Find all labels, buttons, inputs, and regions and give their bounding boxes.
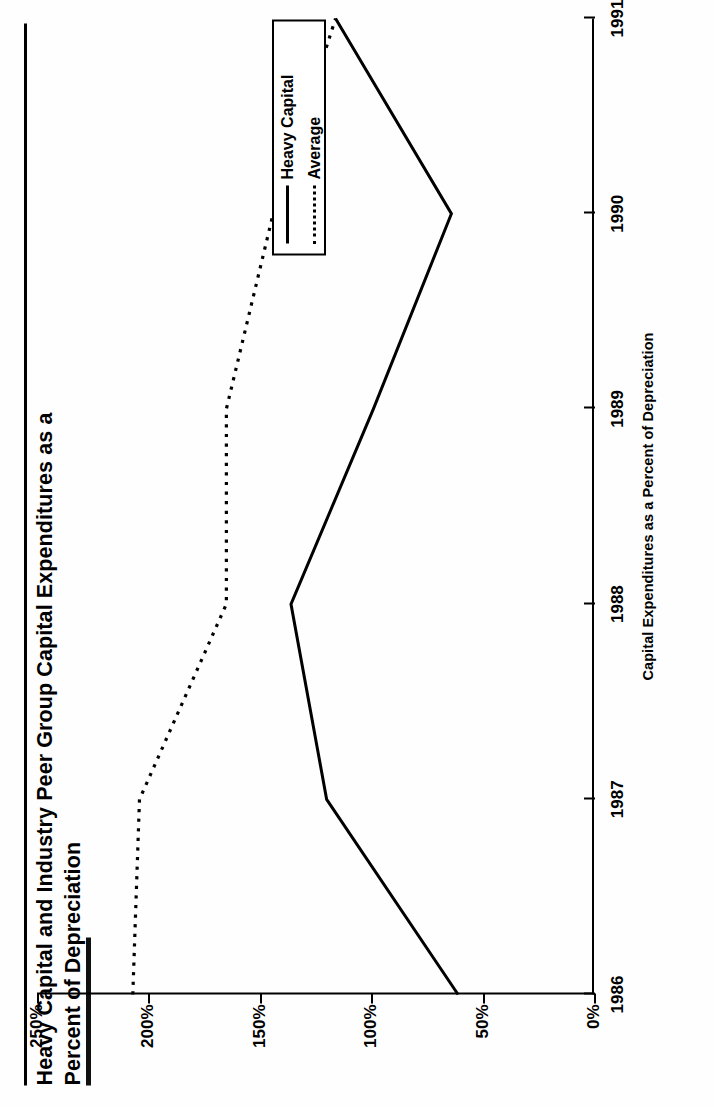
value-tick-label: 150% — [250, 1004, 270, 1060]
value-tick-label: 200% — [138, 1004, 158, 1060]
category-tick-label: 1991 — [608, 0, 628, 53]
legend: Heavy Capital Average — [272, 19, 326, 255]
value-tick-label: 100% — [361, 1004, 381, 1060]
category-tick-label: 1988 — [608, 569, 628, 639]
value-tick-label: 250% — [27, 1004, 47, 1060]
value-tick — [148, 993, 150, 1003]
category-tick-label: 1987 — [608, 764, 628, 834]
category-tick-label: 1989 — [608, 373, 628, 443]
legend-swatch-dotted-line-icon — [313, 185, 316, 243]
value-tick — [260, 993, 262, 1003]
value-tick-label: 0% — [584, 1004, 604, 1060]
value-tick — [371, 993, 373, 1003]
value-axis-title: Capital Expenditures as a Percent of Dep… — [640, 18, 656, 994]
value-tick-label: 50% — [473, 1004, 493, 1060]
value-tick — [483, 993, 485, 1003]
legend-label-heavy-capital: Heavy Capital — [279, 74, 297, 179]
rotated-page-stage: Heavy Capital and Industry Peer Group Ca… — [0, 0, 714, 1107]
value-tick — [594, 993, 596, 1003]
title-rule-top — [24, 23, 27, 1085]
legend-swatch-solid-line-icon — [286, 185, 289, 243]
legend-item-heavy-capital: Heavy Capital — [274, 21, 301, 253]
legend-label-average: Average — [306, 116, 324, 179]
value-tick — [37, 993, 39, 1003]
category-tick-label: 1990 — [608, 178, 628, 248]
category-tick-label: 1986 — [608, 959, 628, 1029]
legend-item-average: Average — [301, 21, 328, 253]
